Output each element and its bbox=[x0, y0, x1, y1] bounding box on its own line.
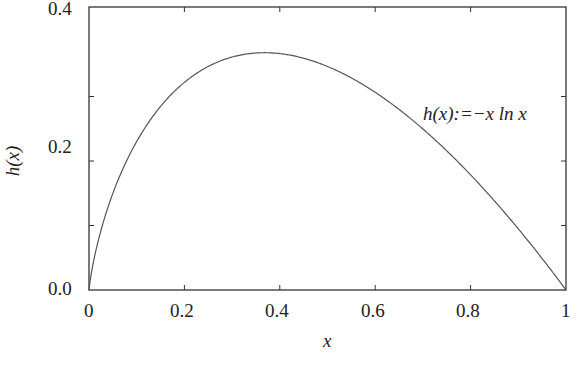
y-tick-0.2: 0.2 bbox=[48, 136, 72, 158]
x-tick-0.6: 0.6 bbox=[361, 300, 385, 322]
entropy-curve bbox=[89, 53, 566, 290]
x-axis-label: x bbox=[323, 330, 331, 352]
y-axis-label: h(x) bbox=[2, 146, 24, 177]
axes-frame bbox=[89, 7, 566, 290]
x-tick-0.8: 0.8 bbox=[456, 300, 480, 322]
x-tick-1: 1 bbox=[561, 300, 571, 322]
x-tick-0: 0 bbox=[84, 300, 94, 322]
y-tick-0.0: 0.0 bbox=[48, 278, 72, 300]
axis-ticks bbox=[89, 7, 566, 290]
x-tick-0.2: 0.2 bbox=[170, 300, 194, 322]
x-tick-0.4: 0.4 bbox=[265, 300, 289, 322]
function-annotation: h(x):=−x ln x bbox=[423, 103, 527, 125]
y-tick-0.4: 0.4 bbox=[48, 0, 72, 20]
